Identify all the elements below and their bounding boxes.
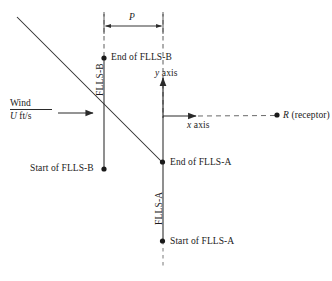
label-start-of-flls-a: Start of FLLS-A	[170, 236, 234, 247]
flls-b-axis-label: FLLS-B	[95, 63, 105, 96]
flls-a-axis-label: FLLS-A	[154, 192, 164, 225]
y-axis-label: y axis	[155, 68, 178, 79]
point-start-of-flls-a	[160, 238, 165, 243]
wind-label: Wind	[10, 98, 56, 108]
label-receptor: R (receptor)	[283, 110, 330, 121]
x-axis-extension-dashed	[198, 116, 275, 117]
wind-speed-label: U ft/s	[10, 111, 56, 121]
plume-trajectory-line	[17, 17, 162, 162]
point-receptor	[274, 112, 279, 117]
label-end-of-flls-b: End of FLLS-B	[111, 52, 172, 63]
label-start-of-flls-b: Start of FLLS-B	[30, 163, 94, 174]
label-end-of-flls-a: End of FLLS-A	[170, 157, 231, 168]
point-end-of-flls-a	[160, 159, 165, 164]
receptor-word: (receptor)	[291, 110, 329, 120]
wind-label-block: Wind U ft/s	[10, 98, 56, 121]
x-axis-label: x axis	[187, 120, 210, 131]
x-axis-word: axis	[194, 120, 210, 130]
wind-speed-symbol: U	[10, 111, 17, 121]
wind-speed-units: ft/s	[19, 111, 31, 121]
diagram-vector-layer	[0, 0, 332, 281]
point-end-of-flls-b	[101, 55, 106, 60]
dimension-label-p: P	[129, 12, 135, 23]
y-axis-word: axis	[162, 68, 178, 78]
point-start-of-flls-b	[101, 166, 106, 171]
wind-label-rule	[10, 109, 52, 110]
diagram-canvas: P FLLS-B FLLS-A End of FLLS-B y axis x a…	[0, 0, 332, 281]
